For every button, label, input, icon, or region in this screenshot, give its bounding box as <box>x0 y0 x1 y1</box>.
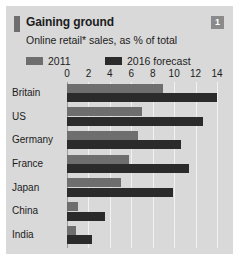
legend-item-2011: 2011 <box>26 51 71 63</box>
bar-britain-2016 <box>67 93 217 102</box>
bar-germany-2016 <box>67 140 181 149</box>
bar-germany-2011 <box>67 131 138 140</box>
x-tick-label-14: 14 <box>211 68 222 79</box>
plot-area: 02468101214 BritainUSGermanyFranceJapanC… <box>6 68 233 248</box>
bar-us-2011 <box>67 107 142 116</box>
bar-india-2016 <box>67 235 92 244</box>
chart-title: Gaining ground <box>26 15 114 29</box>
bar-india-2011 <box>67 226 76 235</box>
category-label-france: France <box>12 158 43 169</box>
title-accent-bar <box>14 16 20 32</box>
legend-item-2016-forecast: 2016 forecast <box>105 51 191 63</box>
chart-header: Gaining ground 1 <box>6 16 233 32</box>
category-label-britain: Britain <box>12 87 40 98</box>
legend-swatch-2016-forecast <box>105 57 122 65</box>
bar-japan-2011 <box>67 178 121 187</box>
category-label-japan: Japan <box>12 182 39 193</box>
chart-number-badge: 1 <box>211 16 224 29</box>
chart-subtitle: Online retail* sales, as % of total <box>26 34 177 46</box>
category-label-china: China <box>12 205 38 216</box>
bar-us-2016 <box>67 117 203 126</box>
category-label-us: US <box>12 111 26 122</box>
gridline-14 <box>217 82 218 248</box>
legend-label-2016-forecast: 2016 forecast <box>127 55 191 67</box>
x-tick-label-4: 4 <box>107 68 113 79</box>
bar-france-2011 <box>67 155 129 164</box>
x-tick-label-10: 10 <box>169 68 180 79</box>
bar-france-2016 <box>67 164 189 173</box>
legend-swatch-2011 <box>26 57 43 65</box>
bar-japan-2016 <box>67 188 173 197</box>
x-tick-label-12: 12 <box>190 68 201 79</box>
plot-grid-and-bars: BritainUSGermanyFranceJapanChinaIndia <box>6 82 233 248</box>
legend-label-2011: 2011 <box>48 55 71 67</box>
x-tick-label-0: 0 <box>64 68 70 79</box>
x-tick-label-2: 2 <box>86 68 92 79</box>
x-tick-label-8: 8 <box>150 68 156 79</box>
category-label-germany: Germany <box>12 134 53 145</box>
bar-britain-2011 <box>67 84 163 93</box>
category-label-india: India <box>12 229 34 240</box>
x-tick-label-6: 6 <box>129 68 135 79</box>
chart-card: Gaining ground 1 Online retail* sales, a… <box>6 6 233 254</box>
bar-china-2011 <box>67 202 78 211</box>
bar-china-2016 <box>67 212 105 221</box>
gridline-12 <box>196 82 197 248</box>
x-axis-tick-labels: 02468101214 <box>6 68 233 82</box>
